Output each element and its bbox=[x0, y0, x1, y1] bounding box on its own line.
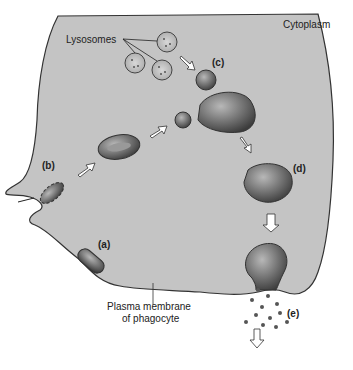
entry-arrow-icon bbox=[18, 198, 34, 202]
debris bbox=[244, 288, 289, 329]
cytoplasm-label: Cytoplasm bbox=[283, 19, 330, 30]
stage-label-c: (c) bbox=[212, 57, 224, 68]
lysosomes-label: Lysosomes bbox=[66, 34, 116, 45]
digestion-vesicle-d bbox=[244, 164, 292, 203]
stage-label-b: (b) bbox=[42, 160, 55, 171]
stage-label-d: (d) bbox=[293, 163, 306, 174]
membrane-label-line1: Plasma membrane bbox=[107, 301, 191, 312]
stage-label-e: (e) bbox=[287, 308, 299, 319]
membrane-label-line2: of phagocyte bbox=[122, 313, 179, 324]
stage-label-a: (a) bbox=[98, 239, 110, 250]
